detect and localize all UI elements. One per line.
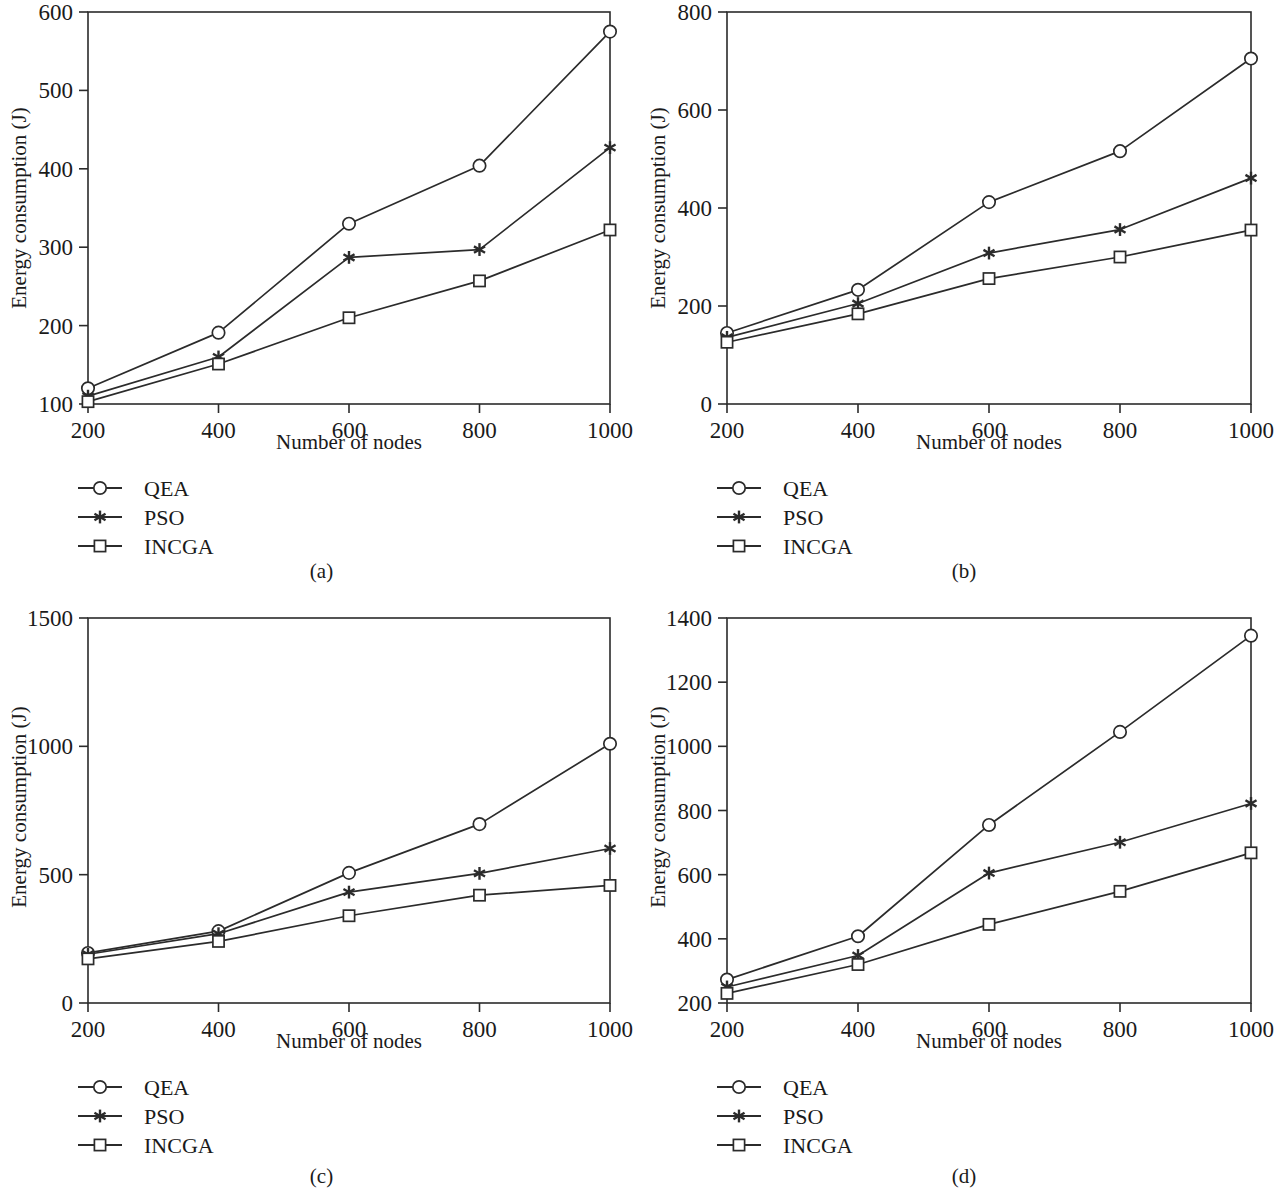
legend-item-incga[interactable]: INCGA (717, 1133, 853, 1158)
square-marker (343, 910, 354, 921)
square-marker (94, 1139, 105, 1150)
square-marker (733, 1139, 744, 1150)
y-tick-label: 100 (39, 392, 74, 417)
x-tick-label: 400 (841, 418, 876, 443)
asterisk-core (98, 515, 102, 519)
y-tick-label: 400 (678, 927, 713, 952)
legend-item-incga[interactable]: INCGA (717, 534, 853, 559)
circle-marker (473, 159, 485, 171)
square-marker (82, 396, 93, 407)
square-marker (1114, 251, 1125, 262)
circle-marker (212, 326, 224, 338)
plot-frame-d (727, 618, 1251, 1003)
asterisk-marker (983, 867, 994, 880)
legend-a: QEAPSOINCGA (78, 476, 214, 559)
x-tick-label: 800 (1103, 1017, 1138, 1042)
x-tick-label: 800 (462, 418, 497, 443)
asterisk-core (608, 847, 612, 851)
legend-item-qea[interactable]: QEA (78, 1075, 189, 1100)
series-line (88, 848, 610, 954)
y-tick-label: 1200 (666, 670, 712, 695)
asterisk-core (737, 515, 741, 519)
square-marker (983, 919, 994, 930)
chart-svg-c: 0500100015002004006008001000Number of no… (0, 595, 643, 1201)
y-axis-b: 0200400600800 (678, 0, 728, 417)
circle-marker (1114, 145, 1126, 157)
asterisk-marker (604, 141, 615, 154)
circle-marker (94, 482, 106, 494)
legend-item-pso[interactable]: PSO (717, 1104, 823, 1129)
circle-marker (343, 867, 355, 879)
legend-item-incga[interactable]: INCGA (78, 534, 214, 559)
y-axis-c: 050010001500 (27, 606, 88, 1016)
y-axis-title: Energy consumption (J) (7, 706, 31, 907)
legend-label: QEA (783, 476, 828, 501)
plot-area-border (88, 618, 610, 1003)
square-marker (604, 880, 615, 891)
chart-panel-d: 2004006008001000120014002004006008001000… (643, 595, 1285, 1201)
x-tick-label: 200 (71, 1017, 106, 1042)
y-tick-label: 400 (39, 157, 74, 182)
circle-marker (473, 818, 485, 830)
series-pso (82, 141, 615, 402)
asterisk-core (478, 248, 482, 252)
circle-marker (733, 1081, 745, 1093)
asterisk-core (856, 954, 860, 958)
y-tick-label: 500 (39, 863, 74, 888)
series-pso (82, 842, 615, 961)
square-marker (1245, 847, 1256, 858)
asterisk-marker (1245, 797, 1256, 810)
legend-d: QEAPSOINCGA (717, 1075, 853, 1158)
y-tick-label: 0 (62, 991, 74, 1016)
asterisk-core (987, 871, 991, 875)
y-tick-label: 200 (678, 991, 713, 1016)
y-axis-title: Energy consumption (J) (646, 706, 670, 907)
asterisk-core (1249, 176, 1253, 180)
square-marker (721, 337, 732, 348)
circle-marker (1245, 52, 1257, 64)
series-qea (82, 738, 616, 960)
asterisk-marker (1114, 836, 1125, 849)
square-marker (852, 308, 863, 319)
circle-marker (604, 25, 616, 37)
y-axis-title: Energy consumption (J) (646, 107, 670, 308)
square-marker (213, 936, 224, 947)
circle-marker (343, 217, 355, 229)
legend-item-pso[interactable]: PSO (717, 505, 823, 530)
y-tick-label: 200 (39, 314, 74, 339)
y-tick-label: 1500 (27, 606, 73, 631)
asterisk-core (347, 255, 351, 259)
legend-item-pso[interactable]: PSO (78, 505, 184, 530)
legend-label: PSO (783, 1104, 823, 1129)
asterisk-core (1118, 840, 1122, 844)
x-tick-label: 1000 (587, 418, 633, 443)
legend-label: INCGA (783, 1133, 853, 1158)
y-tick-label: 600 (678, 863, 713, 888)
panel-caption-d: (d) (952, 1164, 977, 1188)
legend-item-qea[interactable]: QEA (717, 476, 828, 501)
x-tick-label: 1000 (1228, 418, 1274, 443)
square-marker (733, 540, 744, 551)
plot-area-border (727, 618, 1251, 1003)
square-marker (94, 540, 105, 551)
square-marker (474, 275, 485, 286)
legend-item-pso[interactable]: PSO (78, 1104, 184, 1129)
chart-svg-b: 02004006008002004006008001000Number of n… (643, 0, 1285, 595)
legend-label: PSO (783, 505, 823, 530)
figure-grid: 1002003004005006002004006008001000Number… (0, 0, 1285, 1201)
chart-svg-a: 1002003004005006002004006008001000Number… (0, 0, 643, 595)
circle-marker (852, 284, 864, 296)
asterisk-core (1249, 802, 1253, 806)
square-marker (82, 953, 93, 964)
legend-item-qea[interactable]: QEA (717, 1075, 828, 1100)
x-axis-title: Number of nodes (276, 1029, 422, 1053)
legend-item-qea[interactable]: QEA (78, 476, 189, 501)
panel-caption-a: (a) (310, 559, 333, 583)
square-marker (852, 959, 863, 970)
square-marker (474, 890, 485, 901)
x-tick-label: 1000 (587, 1017, 633, 1042)
y-tick-label: 800 (678, 799, 713, 824)
square-marker (1114, 886, 1125, 897)
y-axis-title: Energy consumption (J) (7, 107, 31, 308)
legend-item-incga[interactable]: INCGA (78, 1133, 214, 1158)
